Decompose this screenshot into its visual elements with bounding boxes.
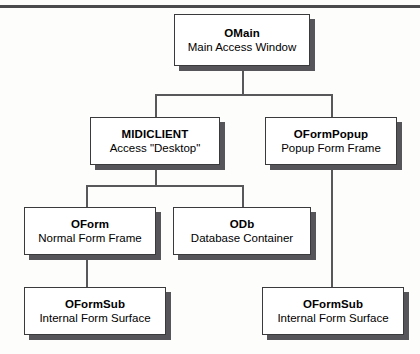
node-oform-subtitle: Normal Form Frame — [38, 231, 142, 246]
node-oformsub-left[interactable]: OFormSub Internal Form Surface — [24, 287, 166, 335]
connector-midiclient-bus — [86, 185, 244, 187]
top-divider-rule — [0, 5, 420, 8]
node-odb-subtitle: Database Container — [191, 231, 293, 246]
node-oformpopup-subtitle: Popup Form Frame — [281, 141, 381, 156]
class-hierarchy-diagram: OMain Main Access Window MIDICLIENT Acce… — [0, 0, 420, 354]
node-odb[interactable]: ODb Database Container — [173, 207, 311, 255]
node-oformpopup[interactable]: OFormPopup Popup Form Frame — [265, 117, 397, 165]
connector-omain-bus — [155, 94, 333, 96]
node-midiclient[interactable]: MIDICLIENT Access "Desktop" — [90, 117, 220, 165]
node-oform-title: OForm — [71, 217, 109, 231]
connector-bus-to-odb — [242, 185, 244, 207]
node-omain-subtitle: Main Access Window — [188, 40, 297, 55]
node-midiclient-subtitle: Access "Desktop" — [110, 141, 201, 156]
node-oform[interactable]: OForm Normal Form Frame — [24, 207, 156, 255]
node-oformsub-right[interactable]: OFormSub Internal Form Surface — [262, 287, 404, 335]
node-oformsub-right-subtitle: Internal Form Surface — [277, 311, 388, 326]
connector-midiclient-stem — [155, 162, 157, 186]
node-omain-title: OMain — [224, 26, 260, 40]
node-omain[interactable]: OMain Main Access Window — [174, 14, 310, 66]
connector-bus-to-oformpopup — [331, 94, 333, 118]
connector-omain-stem — [242, 70, 244, 95]
node-oformsub-left-subtitle: Internal Form Surface — [39, 311, 150, 326]
node-oformpopup-title: OFormPopup — [294, 127, 368, 141]
connector-oformpopup-to-oformsub — [331, 162, 333, 287]
node-oformsub-left-title: OFormSub — [65, 297, 125, 311]
node-midiclient-title: MIDICLIENT — [122, 127, 189, 141]
connector-bus-to-oform — [86, 185, 88, 207]
node-odb-title: ODb — [230, 217, 255, 231]
connector-bus-to-midiclient — [155, 94, 157, 118]
node-oformsub-right-title: OFormSub — [303, 297, 363, 311]
connector-oform-to-oformsub — [86, 252, 88, 287]
